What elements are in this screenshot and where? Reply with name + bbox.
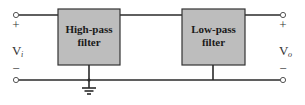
bandpass-filter-diagram: High-pass filter Low-pass filter + − V i… — [0, 0, 305, 105]
input-minus-sign: − — [12, 61, 19, 76]
input-bottom-terminal — [13, 77, 18, 82]
input-voltage-subscript: i — [21, 50, 23, 59]
output-bottom-terminal — [280, 77, 285, 82]
output-plus-sign: + — [279, 17, 286, 32]
input-plus-sign: + — [12, 17, 19, 32]
high-pass-label-1: High-pass — [65, 23, 113, 35]
hp-junction-dot — [87, 78, 90, 81]
circuit-svg: High-pass filter Low-pass filter + − V i… — [0, 0, 305, 105]
ground-icon — [82, 88, 96, 94]
low-pass-label-2: filter — [202, 36, 225, 48]
high-pass-label-2: filter — [77, 36, 100, 48]
output-minus-sign: − — [279, 61, 286, 76]
output-voltage-subscript: o — [288, 50, 292, 59]
low-pass-label-1: Low-pass — [191, 23, 236, 35]
